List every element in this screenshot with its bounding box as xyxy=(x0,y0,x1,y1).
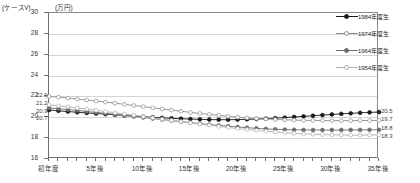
legend: 1984年度生1974年度生1964年度生1954年度生 xyxy=(336,8,418,76)
data-point xyxy=(179,120,183,124)
data-point xyxy=(123,102,127,106)
x-axis-tick-mark xyxy=(123,158,124,161)
data-point xyxy=(349,111,353,115)
x-axis-tick-mark xyxy=(180,158,181,161)
chart-container: (ケースV) (万円) 3028262422201816 初年度5年後10年後1… xyxy=(0,0,420,183)
x-axis-tick-label: 30年後 xyxy=(320,163,341,173)
data-point xyxy=(311,132,315,136)
end-value-label: 19.7 xyxy=(381,116,393,122)
x-axis-tick-mark xyxy=(133,158,134,161)
data-point xyxy=(132,113,136,117)
legend-label: 1964年度生 xyxy=(358,46,389,55)
data-point xyxy=(283,131,287,135)
x-axis-tick-mark xyxy=(218,158,219,161)
x-axis-tick-mark xyxy=(161,158,162,161)
data-point xyxy=(339,128,343,132)
series-line xyxy=(49,108,379,130)
x-axis-tick-mark xyxy=(255,158,256,161)
data-point xyxy=(123,112,127,116)
legend-item-4[interactable]: 1954年度生 xyxy=(336,59,418,76)
x-axis-tick-label: 20年後 xyxy=(226,163,247,173)
data-point xyxy=(57,95,61,99)
x-axis-tick-mark xyxy=(303,158,304,161)
data-point xyxy=(160,107,164,111)
data-point xyxy=(198,117,202,121)
data-point xyxy=(113,111,117,115)
data-point xyxy=(151,116,155,120)
x-axis-tick-mark xyxy=(208,158,209,161)
data-point xyxy=(66,96,70,100)
data-point xyxy=(189,121,193,125)
legend-label: 1974年度生 xyxy=(358,29,389,38)
data-point xyxy=(160,117,164,121)
y-axis-tick-label: 28 xyxy=(0,29,38,36)
data-point xyxy=(311,128,315,132)
data-point xyxy=(66,105,70,109)
x-axis-tick-mark xyxy=(142,158,143,161)
data-point xyxy=(339,112,343,116)
legend-item-2[interactable]: 1974年度生 xyxy=(336,25,418,42)
data-point xyxy=(104,110,108,114)
y-axis-tick-label: 24 xyxy=(0,71,38,78)
x-axis-tick-label: 25年後 xyxy=(273,163,294,173)
data-point xyxy=(302,132,306,136)
data-point xyxy=(113,101,117,105)
x-axis-tick-mark xyxy=(312,158,313,161)
data-point xyxy=(94,99,98,103)
data-point xyxy=(358,133,362,137)
plot-area xyxy=(48,12,378,158)
start-value-label: 20.7 xyxy=(36,115,48,121)
data-point xyxy=(132,104,136,108)
x-axis-tick-mark xyxy=(246,158,247,161)
data-point xyxy=(75,106,79,110)
data-point xyxy=(179,109,183,113)
data-point xyxy=(339,133,343,137)
start-value-label: 20.9 xyxy=(36,108,48,114)
data-point xyxy=(245,128,249,132)
data-point xyxy=(207,118,211,122)
x-axis-tick-mark xyxy=(67,158,68,161)
y-axis-tick-label: 30 xyxy=(0,8,38,15)
x-axis-tick-label: 10年後 xyxy=(132,163,153,173)
data-point xyxy=(57,104,61,108)
data-point xyxy=(339,119,343,123)
data-point xyxy=(321,113,325,117)
data-point xyxy=(226,126,230,130)
x-axis-tick-mark xyxy=(331,158,332,161)
legend-marker-icon xyxy=(336,46,358,55)
data-point xyxy=(85,107,89,111)
data-point xyxy=(349,128,353,132)
end-value-label: 18.8 xyxy=(381,125,393,131)
data-point xyxy=(217,118,221,122)
data-point xyxy=(255,129,259,133)
data-point xyxy=(236,127,240,131)
x-axis-tick-mark xyxy=(378,158,379,161)
data-point xyxy=(189,117,193,121)
data-point xyxy=(349,133,353,137)
legend-marker-icon xyxy=(336,12,358,21)
data-point xyxy=(358,128,362,132)
x-axis-tick-mark xyxy=(57,158,58,161)
data-point xyxy=(245,116,249,120)
data-point xyxy=(311,119,315,123)
legend-item-1[interactable]: 1984年度生 xyxy=(336,8,418,25)
data-point xyxy=(368,128,372,132)
legend-label: 1984年度生 xyxy=(358,12,389,21)
data-point xyxy=(368,119,372,123)
x-axis-tick-mark xyxy=(274,158,275,161)
x-axis-tick-mark xyxy=(321,158,322,161)
y-axis-tick-label: 26 xyxy=(0,50,38,57)
x-axis-tick-mark xyxy=(227,158,228,161)
legend-item-3[interactable]: 1964年度生 xyxy=(336,42,418,59)
x-axis-tick-mark xyxy=(284,158,285,161)
y-axis-tick-label: 16 xyxy=(0,154,38,161)
legend-marker-icon xyxy=(336,29,358,38)
data-point xyxy=(255,117,259,121)
data-point xyxy=(321,128,325,132)
data-point xyxy=(358,119,362,123)
data-point xyxy=(189,110,193,114)
x-axis-tick-mark xyxy=(76,158,77,161)
end-value-label: 18.3 xyxy=(381,133,393,139)
data-point xyxy=(330,128,334,132)
data-point xyxy=(321,133,325,137)
